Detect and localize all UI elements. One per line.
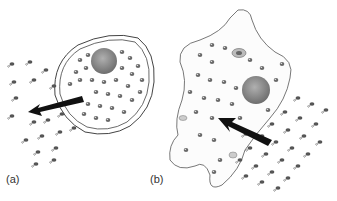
nucleus-a [91,48,117,74]
cell-a [7,35,154,167]
panel-label-a: (a) [6,173,19,185]
nucleus-b [242,76,270,104]
panel-label-b: (b) [150,173,163,185]
diagram [0,0,337,201]
cell-b [170,10,329,192]
